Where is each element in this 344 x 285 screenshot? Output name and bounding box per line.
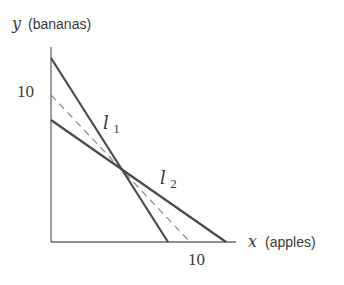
y-tick-10: 10 (17, 82, 34, 101)
label-l2: l 2 (160, 167, 177, 191)
label-l1-subscript: 1 (113, 121, 120, 136)
label-l2-subscript: 2 (170, 176, 177, 191)
diagram-canvas: y (bananas) 10 x (apples) 10 l 1 l 2 (0, 0, 344, 285)
label-l2-name: l (160, 167, 166, 188)
x-axis-unit: (apples) (265, 234, 316, 250)
y-axis-unit: (bananas) (28, 16, 91, 32)
x-tick-10: 10 (188, 250, 205, 269)
label-l1: l 1 (103, 112, 120, 136)
line-l2 (51, 120, 226, 242)
line-l1 (51, 58, 168, 242)
x-axis-label: x (apples) (248, 232, 316, 251)
x-axis-var: x (248, 232, 257, 251)
label-l1-name: l (103, 112, 109, 133)
y-axis-label: y (bananas) (11, 14, 91, 33)
y-axis-var: y (11, 14, 22, 33)
